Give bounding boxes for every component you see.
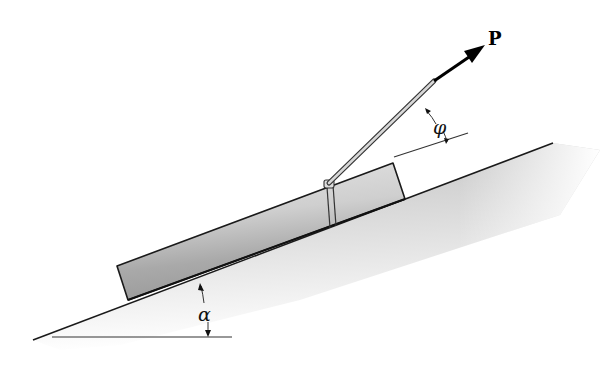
incline-plane bbox=[33, 143, 600, 350]
phi-label: φ bbox=[433, 116, 447, 138]
force-label-p: P bbox=[488, 28, 502, 49]
phi-reference-line bbox=[394, 133, 468, 157]
alpha-label: α bbox=[198, 303, 211, 325]
incline-diagram: P φ α bbox=[0, 0, 602, 367]
force-arrow-p bbox=[434, 45, 485, 81]
